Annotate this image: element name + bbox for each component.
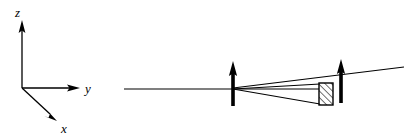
hatched-block — [319, 83, 333, 105]
figure-canvas: z y x — [0, 0, 418, 138]
hatched-block-outline — [319, 83, 333, 105]
second-arrow-stem — [339, 68, 343, 103]
z-axis — [19, 20, 26, 88]
second-arrow-element — [337, 59, 345, 103]
optical-diagram-svg: z y x — [0, 0, 418, 138]
x-axis — [22, 88, 57, 121]
x-axis-line — [22, 88, 50, 114]
z-axis-label: z — [14, 5, 20, 20]
lower-converging-ray — [233, 89, 320, 104]
first-arrow-element — [229, 61, 237, 106]
optical-ray-diagram — [124, 59, 404, 106]
coordinate-axis-triad: z y x — [14, 5, 91, 136]
y-axis-label: y — [83, 81, 91, 96]
x-axis-label: x — [60, 121, 67, 136]
first-arrow-stem — [231, 70, 235, 106]
x-axis-arrowhead — [44, 113, 57, 121]
y-axis — [22, 85, 80, 92]
